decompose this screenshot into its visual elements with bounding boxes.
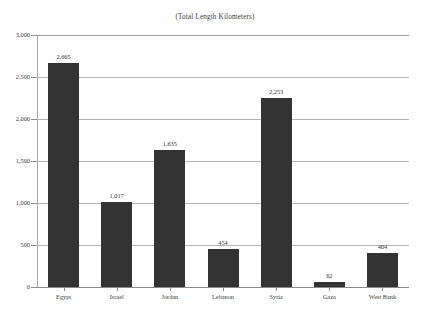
bar-value-label: 454 — [198, 239, 248, 246]
bar-chart: (Total Length Kilometers) 05001,0001,500… — [0, 0, 430, 320]
y-tick-label: 2,500 — [2, 73, 30, 80]
x-tick-label: Syria — [246, 293, 306, 300]
gridline — [37, 161, 409, 162]
gridline — [37, 77, 409, 78]
bar-value-label: 2,665 — [39, 53, 89, 60]
plot-area — [37, 35, 409, 287]
x-tick-mark — [223, 288, 224, 291]
bar — [261, 98, 292, 287]
gridline — [37, 35, 409, 36]
x-tick-mark — [276, 288, 277, 291]
x-tick-label: Israel — [87, 293, 147, 300]
y-tick-mark — [31, 161, 37, 162]
bar-value-label: 404 — [357, 243, 407, 250]
x-tick-mark — [170, 288, 171, 291]
y-tick-label: 500 — [2, 241, 30, 248]
x-tick-mark — [382, 288, 383, 291]
y-tick-label: 3,000 — [2, 31, 30, 38]
gridline — [37, 119, 409, 120]
y-tick-mark — [31, 245, 37, 246]
bar — [367, 253, 398, 287]
y-tick-label: 2,000 — [2, 115, 30, 122]
x-tick-label: Gaza — [299, 293, 359, 300]
y-tick-label: 1,000 — [2, 199, 30, 206]
y-tick-mark — [31, 35, 37, 36]
y-tick-label: 1,500 — [2, 157, 30, 164]
y-tick-mark — [31, 203, 37, 204]
bar — [48, 63, 79, 287]
chart-title: (Total Length Kilometers) — [0, 13, 430, 21]
bar — [154, 150, 185, 287]
bar-value-label: 2,253 — [251, 88, 301, 95]
x-tick-mark — [117, 288, 118, 291]
bar-value-label: 62 — [304, 272, 354, 279]
y-tick-mark — [31, 119, 37, 120]
x-tick-mark — [64, 288, 65, 291]
y-tick-mark — [31, 77, 37, 78]
x-tick-mark — [329, 288, 330, 291]
bar-value-label: 1,635 — [145, 140, 195, 147]
y-axis-tick-labels: 05001,0001,5002,0002,5003,000 — [0, 0, 30, 320]
x-tick-label: Egypt — [34, 293, 94, 300]
bar — [208, 249, 239, 287]
x-tick-label: Lebanon — [193, 293, 253, 300]
x-tick-label: West Bank — [352, 293, 412, 300]
bar — [101, 202, 132, 287]
y-tick-label: 0 — [2, 283, 30, 290]
bar-value-label: 1,017 — [92, 192, 142, 199]
gridline — [37, 203, 409, 204]
x-tick-label: Jordan — [140, 293, 200, 300]
